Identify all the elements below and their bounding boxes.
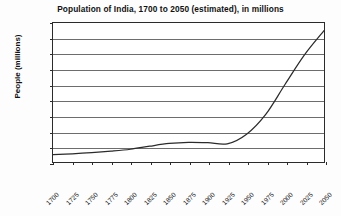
x-tick-mark: [92, 162, 93, 165]
x-tick-mark: [190, 162, 191, 165]
x-tick-mark: [248, 162, 249, 165]
x-tick-mark: [151, 162, 152, 165]
x-tick-mark: [73, 162, 74, 165]
x-tick-mark: [287, 162, 288, 165]
x-tick-mark: [170, 162, 171, 165]
x-tick-mark: [268, 162, 269, 165]
x-tick-mark: [112, 162, 113, 165]
y-axis-label: People (millions): [13, 20, 22, 114]
plot-area: 020040060080010001200140016001800 170017…: [52, 22, 325, 163]
series-population-of-india: [53, 23, 324, 162]
series-line: [53, 31, 324, 155]
x-tick-mark: [326, 162, 327, 165]
x-tick-mark: [229, 162, 230, 165]
chart-title: Population of India, 1700 to 2050 (estim…: [0, 4, 341, 14]
x-tick-mark: [53, 162, 54, 165]
x-tick-mark: [209, 162, 210, 165]
population-chart: Population of India, 1700 to 2050 (estim…: [0, 0, 341, 216]
x-tick-mark: [131, 162, 132, 165]
x-tick-mark: [307, 162, 308, 165]
